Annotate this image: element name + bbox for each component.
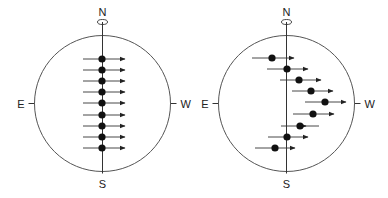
velocity-row <box>267 65 308 72</box>
velocity-row <box>83 99 125 106</box>
sunspot-marker <box>307 87 314 94</box>
diagram-differential-rotation: NSEW <box>201 6 375 190</box>
sunspot-marker <box>98 55 105 62</box>
sunspot-marker <box>98 99 105 106</box>
sunspot-marker <box>295 76 302 83</box>
velocity-row <box>83 133 125 140</box>
velocity-row <box>83 88 125 95</box>
sunspot-marker <box>271 144 278 151</box>
sunspot-marker <box>309 110 316 117</box>
sunspot-marker <box>98 77 105 84</box>
sunspot-marker <box>268 54 275 61</box>
label-west: W <box>181 98 192 110</box>
sunspot-marker <box>98 88 105 95</box>
label-east: E <box>17 98 24 110</box>
velocity-row <box>292 87 333 94</box>
velocity-row <box>255 144 295 151</box>
sunspot-marker <box>321 98 328 105</box>
sunspot-marker <box>98 133 105 140</box>
velocity-row <box>83 111 125 118</box>
velocity-row <box>252 54 294 61</box>
sunspot-marker <box>296 122 303 129</box>
label-north: N <box>283 6 291 18</box>
velocity-row <box>305 98 346 105</box>
label-north: N <box>99 6 107 18</box>
label-east: E <box>201 98 208 110</box>
rotation-diagram-figure: NSEW NSEW <box>0 0 388 198</box>
velocity-row <box>83 77 125 84</box>
velocity-row <box>83 66 125 73</box>
velocity-row <box>83 55 125 62</box>
label-west: W <box>365 98 376 110</box>
sunspot-marker <box>98 111 105 118</box>
sunspot-marker <box>283 133 290 140</box>
sunspot-marker <box>283 65 290 72</box>
diagram-uniform-rotation: NSEW <box>17 6 191 190</box>
velocity-row <box>83 122 125 129</box>
label-south: S <box>283 178 290 190</box>
velocity-row <box>83 144 125 151</box>
sunspot-marker <box>98 122 105 129</box>
velocity-row <box>268 133 308 140</box>
sunspot-marker <box>98 144 105 151</box>
velocity-row <box>293 110 334 117</box>
sunspot-marker <box>98 66 105 73</box>
label-south: S <box>99 178 106 190</box>
